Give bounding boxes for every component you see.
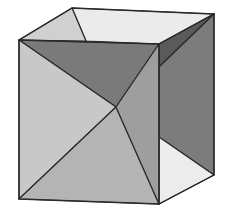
cube-diagram <box>0 0 233 213</box>
cube-svg <box>0 0 233 213</box>
